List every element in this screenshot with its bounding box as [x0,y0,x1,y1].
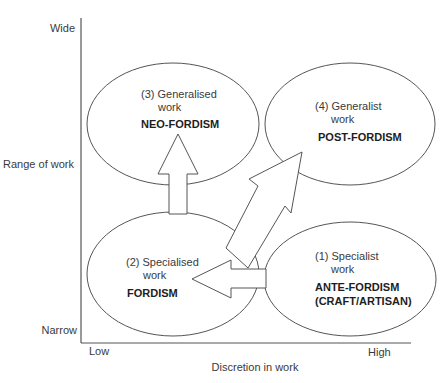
q4-title-line2: work [330,113,355,125]
specialist-work-ellipse [264,222,436,336]
work-organisation-diagram: Wide Range of work Narrow Low High Discr… [0,0,448,383]
q3-title-line2: work [157,101,182,113]
q1-name-line1: ANTE-FORDISM [315,281,399,293]
q2-name: FORDISM [127,287,178,299]
q1-name-line2: (CRAFT/ARTISAN) [315,295,412,307]
q3-title-line1: (3) Generalised [141,88,217,100]
q4-title-line1: (4) Generalist [315,100,382,112]
y-axis-top-label: Wide [50,22,75,34]
q4-name: POST-FORDISM [318,131,402,143]
q2-title-line2: work [142,269,167,281]
x-axis-right-label: High [368,346,391,358]
q2-title-line1: (2) Specialised [126,256,199,268]
q1-title-line2: work [330,263,355,275]
y-axis-bottom-label: Narrow [42,324,78,336]
y-axis-title: Range of work [3,158,74,170]
x-axis-title: Discretion in work [212,361,299,373]
q3-name: NEO-FORDISM [141,118,219,130]
x-axis-left-label: Low [89,345,109,357]
q1-title-line1: (1) Specialist [315,250,379,262]
